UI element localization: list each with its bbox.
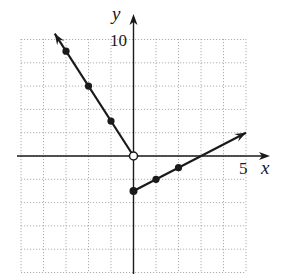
- piecewise-function-graph: [0, 0, 282, 275]
- series: [55, 34, 246, 195]
- data-point: [175, 164, 182, 171]
- y-axis-label: y: [112, 4, 120, 23]
- x-axis-label: x: [261, 158, 269, 177]
- x-tick-label-5: 5: [239, 160, 248, 177]
- line-arrow-icon: [55, 34, 64, 46]
- closed-endpoint: [130, 187, 138, 195]
- data-point: [85, 83, 92, 90]
- function-line-1: [134, 133, 247, 191]
- y-tick-label-10: 10: [110, 32, 127, 49]
- data-point: [152, 176, 159, 183]
- data-point: [62, 48, 69, 55]
- axes: [17, 14, 270, 274]
- data-point: [107, 117, 114, 124]
- open-endpoint: [130, 152, 138, 160]
